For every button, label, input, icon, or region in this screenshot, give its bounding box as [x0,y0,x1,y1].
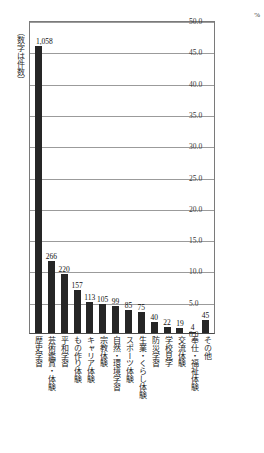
bar-item[interactable]: 1,058 [32,22,45,333]
bar[interactable]: 75 [138,312,145,333]
bar-item[interactable]: 113 [83,22,96,333]
bar-value-label: 75 [138,304,146,312]
x-axis-category-labels: 歴史学習芸術鑑賞・体験平和学習もの作り体験キャリア体験宗教体験自然・環境学習スポ… [29,336,215,452]
x-axis-category: もの作り体験 [70,336,83,452]
bar-value-label: 45 [202,312,210,320]
x-axis-category-label: 自然・環境学習 [111,336,120,391]
bar-value-label: 105 [97,296,108,304]
bar-item[interactable]: 75 [135,22,148,333]
x-axis-category: スポーツ体験 [122,336,135,452]
bar-item[interactable]: 220 [58,22,71,333]
bar[interactable]: 85 [125,310,132,333]
bar[interactable]: 266 [48,261,55,333]
bar[interactable]: 45 [202,320,209,333]
x-axis-category-label: 交流体験 [176,336,185,367]
y-axis-tick-label: 5.0 [189,298,198,307]
x-axis-category-label: 平和学習 [59,336,68,367]
bar[interactable]: 157 [74,290,81,333]
bar[interactable]: 1,058 [35,46,42,333]
x-axis-category: 交流体験 [174,336,187,452]
bar-item[interactable]: 266 [45,22,58,333]
y-axis-tick-label: 20.0 [189,204,202,213]
x-axis-category: 自然・環境学習 [109,336,122,452]
x-axis-category-label: 生業・くらし体験 [137,336,146,398]
y-axis-tick-label: 25.0 [189,173,202,182]
value-unit-note: （数字は件数） [10,28,24,84]
x-axis-category: 平和学習 [57,336,70,452]
x-axis-category-label: 歴史学習 [33,336,42,367]
y-axis-tick-label: 40.0 [189,79,202,88]
bar-value-label: 19 [176,320,184,328]
x-axis-category: 学校見学 [161,336,174,452]
x-axis-category: その他 [200,336,213,452]
y-axis-tick-label: 50.0 [189,17,202,26]
bar-value-label: 157 [71,282,82,290]
bar[interactable]: 40 [151,322,158,333]
x-axis-category: 芸術鑑賞・体験 [44,336,57,452]
bar[interactable]: 113 [86,302,93,333]
x-axis-category: 防災学習 [148,336,161,452]
bar-item[interactable]: 105 [96,22,109,333]
x-axis-category: 奉仕・福祉体験 [187,336,200,452]
bar[interactable]: 105 [99,304,106,333]
plot-area: 1,058266220157113105998575402219445 [29,21,215,334]
bar[interactable]: 22 [164,327,171,333]
bar[interactable]: 99 [112,306,119,333]
bar[interactable]: 220 [61,274,68,333]
x-axis-category-label: 宗教体験 [98,336,107,367]
bar-item[interactable]: 19 [173,22,186,333]
x-axis-category: キャリア体験 [83,336,96,452]
x-axis-category: 生業・くらし体験 [135,336,148,452]
bar-item[interactable]: 22 [161,22,174,333]
y-axis-tick-label: 35.0 [189,110,202,119]
x-axis-category: 宗教体験 [96,336,109,452]
x-axis-category-label: その他 [202,336,211,359]
y-axis-tick-label: 45.0 [189,48,202,57]
bar-item[interactable]: 99 [109,22,122,333]
bar-series: 1,058266220157113105998575402219445 [30,22,214,333]
bar[interactable]: 19 [176,328,183,333]
x-axis-category-label: もの作り体験 [72,336,81,383]
x-axis-category-label: 学校見学 [163,336,172,367]
bar-item[interactable]: 85 [122,22,135,333]
bar-chart: （数字は件数） % 1,0582662201571131059985754022… [0,0,264,453]
percent-unit-label: % [254,11,260,19]
y-axis-tick-label: 10.0 [189,267,202,276]
y-axis-tick-label: 30.0 [189,142,202,151]
bar-value-label: 266 [46,253,57,261]
x-axis-category-label: 芸術鑑賞・体験 [46,336,55,391]
x-axis-category: 歴史学習 [31,336,44,452]
y-axis-tick-label: 15.0 [189,236,202,245]
bar-value-label: 40 [150,314,158,322]
bar-item[interactable]: 157 [71,22,84,333]
bar-value-label: 22 [163,319,171,327]
bar-value-label: 220 [59,266,70,274]
x-axis-category-label: 防災学習 [150,336,159,367]
bar-value-label: 113 [84,294,95,302]
x-axis-category-label: スポーツ体験 [124,336,133,383]
bar-value-label: 99 [112,298,120,306]
x-axis-category-label: キャリア体験 [85,336,94,383]
bar-item[interactable]: 40 [148,22,161,333]
bar-value-label: 85 [125,302,133,310]
x-axis-category-label: 奉仕・福祉体験 [189,336,198,391]
